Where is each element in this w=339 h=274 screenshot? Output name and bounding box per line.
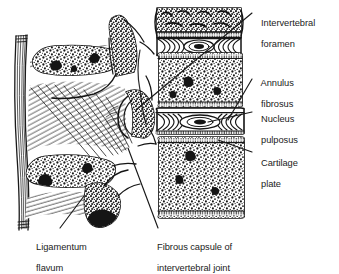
label-cartilage-plate: Cartilage plate	[256, 148, 298, 190]
label-line-2: plate	[261, 179, 281, 189]
label-nucleus-pulposus: Nucleus pulposus	[256, 104, 298, 146]
label-line-2: foramen	[261, 39, 295, 49]
vertebral-body-upper-partial	[155, 8, 243, 38]
intervertebral-disc-lower	[156, 108, 244, 135]
label-line-1: Fibrous capsule of	[157, 242, 232, 252]
label-line-1: Ligamentum	[36, 242, 87, 252]
label-ligamentum-flavum: Ligamentum flavum	[31, 232, 87, 274]
label-line-1: Cartilage	[261, 158, 298, 168]
leader-fibrous-capsule	[128, 148, 158, 228]
label-fibrous-capsule: Fibrous capsule of intervertebral joint	[152, 232, 232, 274]
label-line-1: Nucleus	[261, 114, 294, 124]
label-line-1: Annulus	[261, 78, 294, 88]
label-line-2: intervertebral joint	[157, 263, 230, 273]
label-line-1: Intervertebral	[261, 18, 315, 28]
label-intervertebral-foramen: Intervertebral foramen	[256, 8, 315, 50]
label-line-2: flavum	[36, 263, 63, 273]
vertebral-body-lower	[157, 137, 245, 219]
label-line-2: pulposus	[261, 135, 298, 145]
